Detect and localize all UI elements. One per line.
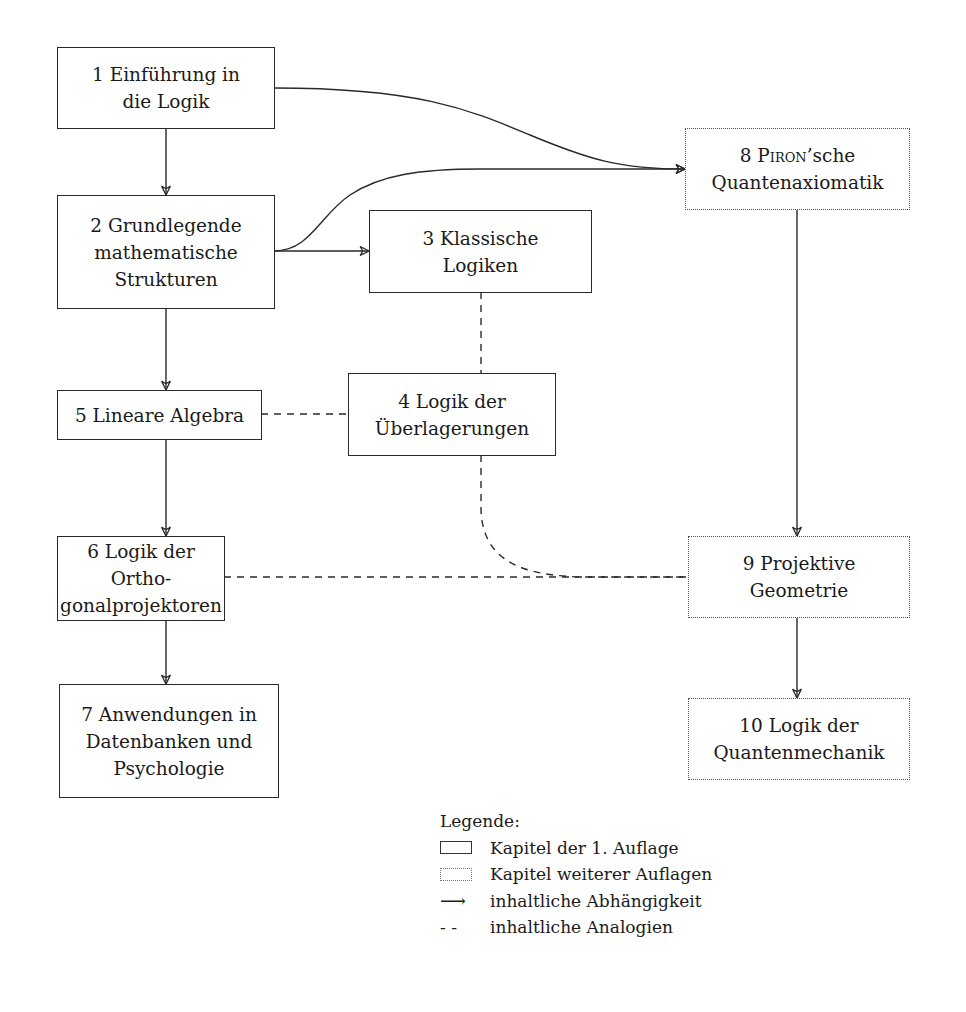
dotted-box-icon: [440, 868, 472, 881]
node-label: 7 Anwendungen in Datenbanken und Psychol…: [81, 701, 257, 782]
legend: Legende: Kapitel der 1. Auflage Kapitel …: [440, 808, 712, 941]
node-label: 6 Logik der Ortho- gonalprojektoren: [58, 538, 224, 619]
node-label: 9 Projektive Geometrie: [743, 550, 856, 604]
legend-item: Kapitel der 1. Auflage: [440, 835, 712, 862]
edge-1-8: [274, 88, 685, 169]
node-10-quantenmechanik: 10 Logik der Quantenmechanik: [688, 698, 910, 780]
node-3-klassische-logiken: 3 Klassische Logiken: [369, 210, 592, 293]
node-label: 5 Lineare Algebra: [75, 402, 244, 429]
dashed-line-icon: - -: [440, 914, 457, 941]
node-label: 4 Logik der Überlagerungen: [375, 388, 529, 442]
node-label: 3 Klassische Logiken: [422, 225, 538, 279]
node-6-orthogonalprojektoren: 6 Logik der Ortho- gonalprojektoren: [57, 536, 225, 621]
node-1-einfuehrung: 1 Einführung in die Logik: [57, 47, 275, 129]
node-label: 8 Piron’sche Quantenaxiomatik: [712, 142, 884, 196]
solid-box-icon: [440, 841, 472, 854]
node-4-logik-ueberlagerungen: 4 Logik der Überlagerungen: [348, 373, 556, 456]
node-7-anwendungen: 7 Anwendungen in Datenbanken und Psychol…: [59, 684, 279, 798]
arrow-icon: ⟶: [440, 888, 466, 915]
legend-title: Legende:: [440, 808, 712, 835]
node-label: 2 Grundlegende mathematische Strukturen: [90, 212, 241, 293]
node-8-piron-quantenaxiomatik: 8 Piron’sche Quantenaxiomatik: [685, 128, 910, 210]
node-label: 1 Einführung in die Logik: [92, 61, 240, 115]
analogy-4-9: [481, 455, 688, 577]
node-label: 10 Logik der Quantenmechanik: [713, 712, 884, 766]
node-2-grundlegende-strukturen: 2 Grundlegende mathematische Strukturen: [57, 195, 275, 309]
legend-item: Kapitel weiterer Auflagen: [440, 861, 712, 888]
node-5-lineare-algebra: 5 Lineare Algebra: [57, 390, 262, 440]
legend-item: ⟶ inhaltliche Abhängigkeit: [440, 888, 712, 915]
node-9-projektive-geometrie: 9 Projektive Geometrie: [688, 536, 910, 618]
legend-item: - - inhaltliche Analogien: [440, 914, 712, 941]
